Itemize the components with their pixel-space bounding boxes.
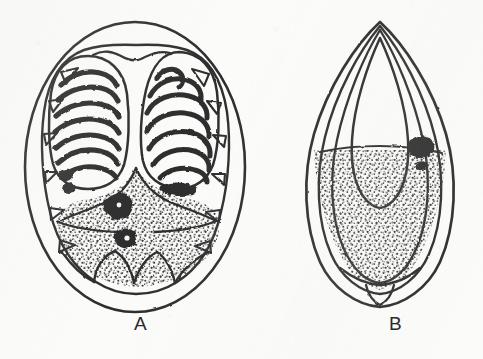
panel-b-label: B [389, 314, 402, 333]
panel-b-drawing [305, 22, 457, 307]
scientific-illustration [0, 0, 483, 359]
right-lobe-ribs [147, 69, 210, 182]
panel-a-drawing [25, 22, 245, 312]
left-lobe-ribs [55, 72, 119, 177]
panel-a-left-flecks [58, 169, 75, 194]
figure-root: A B [0, 0, 483, 359]
panel-a-left-lobe [49, 56, 129, 189]
panel-a-label: A [134, 314, 147, 333]
lateral-dark-mass [408, 137, 435, 158]
